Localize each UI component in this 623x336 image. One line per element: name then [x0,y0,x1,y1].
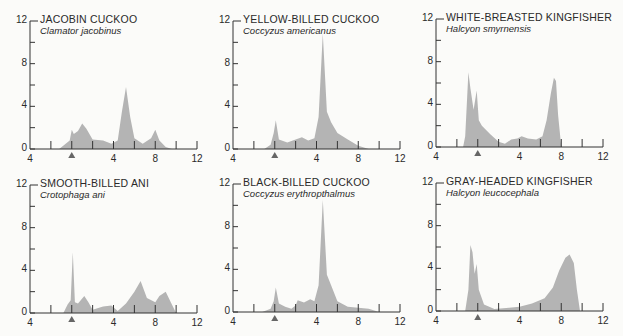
species-common-name: JACOBIN CUCKOO [40,13,137,25]
species-common-name: YELLOW-BILLED CUCKOO [243,13,379,25]
species-scientific-name: Halcyon smyrnensis [446,23,531,34]
y-tick-label: 12 [13,178,27,189]
x-tick-label: 4 [426,151,446,162]
species-common-name: BLACK-BILLED CUCKOO [243,176,370,188]
species-common-name: WHITE-BREASTED KINGFISHER [446,11,612,23]
triangle-marker-icon [68,152,75,158]
y-tick-label: 8 [13,57,27,68]
y-tick-label: 4 [13,263,27,274]
species-common-name: GRAY-HEADED KINGFISHER [446,175,593,187]
x-tick-label: 8 [348,316,368,327]
x-tick-label: 4 [307,316,327,327]
y-tick-label: 4 [419,261,433,272]
y-tick-label: 0 [13,306,27,317]
triangle-marker-icon [68,316,75,322]
species-scientific-name: Coccyzus americanus [243,25,336,36]
y-tick-label: 0 [419,304,433,315]
chart-white-breasted-kingfisher: WHITE-BREASTED KINGFISHERHalcyon smyrnen… [406,0,616,166]
triangle-marker-icon [271,315,278,321]
species-scientific-name: Coccyzus erythropthalmus [243,188,355,199]
x-tick-label: 4 [510,315,530,326]
x-tick-label: 4 [223,316,243,327]
x-tick-label: 12 [593,315,613,326]
y-tick-label: 8 [419,55,433,66]
y-tick-label: 12 [13,14,27,25]
chart-smooth-billed-ani: SMOOTH-BILLED ANICrotophaga ani128404481… [0,164,210,332]
species-scientific-name: Halcyon leucocephala [446,187,539,198]
triangle-marker-icon [271,152,278,158]
chart-jacobin-cuckoo: JACOBIN CUCKOOClamator jacobinus12840448… [0,0,210,168]
plot-area [0,164,210,332]
y-tick-label: 0 [13,142,27,153]
x-tick-label: 4 [510,151,530,162]
x-tick-label: 4 [426,315,446,326]
chart-black-billed-cuckoo: BLACK-BILLED CUCKOOCoccyzus erythropthal… [203,163,413,331]
species-scientific-name: Clamator jacobinus [40,25,121,36]
y-tick-label: 4 [216,99,230,110]
y-tick-label: 4 [13,99,27,110]
y-tick-label: 12 [419,176,433,187]
y-tick-label: 8 [216,220,230,231]
activity-area [264,34,368,149]
activity-area [463,72,561,147]
y-tick-label: 8 [419,219,433,230]
y-tick-label: 0 [216,305,230,316]
x-tick-label: 4 [20,153,40,164]
y-tick-label: 4 [419,97,433,108]
x-tick-label: 4 [104,317,124,328]
x-tick-label: 4 [104,153,124,164]
x-tick-label: 8 [551,151,571,162]
y-tick-label: 4 [216,262,230,273]
x-tick-label: 8 [145,153,165,164]
activity-area [59,87,172,149]
chart-yellow-billed-cuckoo: YELLOW-BILLED CUCKOOCoccyzus americanus1… [203,0,413,168]
y-tick-label: 12 [419,12,433,23]
y-tick-label: 8 [216,57,230,68]
chart-gray-headed-kingfisher: GRAY-HEADED KINGFISHERHalcyon leucocepha… [406,162,616,330]
activity-area [262,200,379,312]
x-tick-label: 12 [593,151,613,162]
x-tick-label: 8 [551,315,571,326]
activity-area [465,245,580,311]
y-tick-label: 0 [419,140,433,151]
y-tick-label: 12 [216,14,230,25]
triangle-marker-icon [474,150,481,156]
species-common-name: SMOOTH-BILLED ANI [40,177,149,189]
y-tick-label: 12 [216,177,230,188]
x-tick-label: 8 [145,317,165,328]
y-tick-label: 8 [13,221,27,232]
y-tick-label: 0 [216,142,230,153]
triangle-marker-icon [474,314,481,320]
x-tick-label: 4 [20,317,40,328]
activity-area [63,252,176,313]
species-scientific-name: Crotophaga ani [40,189,105,200]
